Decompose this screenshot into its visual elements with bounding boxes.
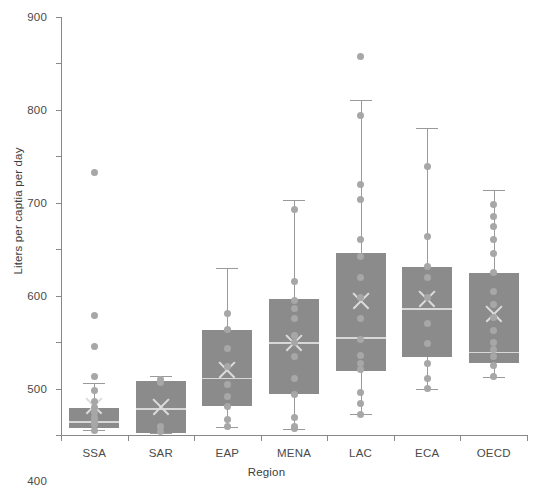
x-tick-mark [61, 435, 62, 441]
x-tick-mark [327, 435, 328, 441]
data-point [490, 201, 497, 208]
x-axis-line [61, 435, 527, 436]
data-point [490, 339, 497, 346]
data-point [490, 362, 497, 369]
y-tick-label: 700 [27, 197, 47, 209]
data-point [490, 236, 497, 243]
y-axis-label: Liters per captia per day [12, 131, 24, 291]
x-tick-mark [128, 435, 129, 441]
y-tick-label: 500 [27, 383, 47, 395]
x-tick-mark [527, 435, 528, 441]
plot-area: 0100200300400500600700800900 SSASAREAPME… [61, 17, 527, 435]
data-point [490, 223, 497, 230]
box-plot-chart: Liters per captia per day Region 0100200… [0, 0, 533, 487]
x-tick-label-mena: MENA [277, 447, 311, 459]
whisker-cap-upper [483, 190, 505, 191]
y-tick-label: 800 [27, 104, 47, 116]
data-point [490, 373, 497, 380]
data-point [490, 250, 497, 257]
x-tick-mark [460, 435, 461, 441]
x-tick-label-eap: EAP [216, 447, 240, 459]
x-axis-label: Region [0, 466, 533, 478]
y-tick-label: 400 [27, 475, 47, 487]
box-group-oecd [61, 17, 527, 435]
x-tick-label-sar: SAR [149, 447, 173, 459]
data-point [490, 346, 497, 353]
y-tick-label: 600 [27, 290, 47, 302]
x-tick-mark [261, 435, 262, 441]
x-tick-label-lac: LAC [349, 447, 372, 459]
x-tick-label-ssa: SSA [82, 447, 106, 459]
x-tick-label-oecd: OECD [477, 447, 511, 459]
data-point [490, 213, 497, 220]
x-tick-mark [194, 435, 195, 441]
data-point [490, 288, 497, 295]
y-tick-label: 900 [27, 11, 47, 23]
x-tick-label-eca: ECA [415, 447, 439, 459]
x-tick-mark [394, 435, 395, 441]
